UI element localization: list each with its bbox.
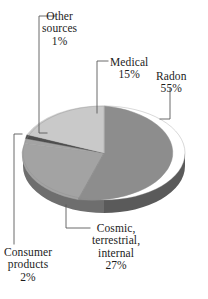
callout-label-radon: Radon 55% (156, 70, 187, 95)
callout-radon-line1: Radon (156, 70, 187, 82)
callout-label-medical: Medical 15% (110, 56, 148, 81)
pie-top-face (22, 106, 185, 200)
callout-cosmic-line2: terrestrial, (92, 234, 140, 246)
callout-consumer-line1: Consumer (4, 246, 52, 258)
callout-other-sources-line1: Other (42, 10, 77, 22)
callout-cosmic-line3: internal (92, 247, 140, 259)
callout-label-cosmic: Cosmic, terrestrial, internal 27% (92, 222, 140, 272)
leader-line-consumer-products (14, 134, 22, 244)
callout-medical-line1: Medical (110, 56, 148, 68)
pie-chart-figure: Other sources 1% Medical 15% Radon 55% C… (0, 0, 208, 299)
callout-other-sources-value: 1% (42, 35, 77, 47)
callout-label-other-sources: Other sources 1% (42, 10, 77, 47)
callout-label-consumer-products: Consumer products 2% (4, 246, 52, 283)
callout-other-sources-line2: sources (42, 22, 77, 34)
callout-medical-value: 15% (110, 68, 148, 80)
callout-cosmic-line1: Cosmic, (92, 222, 140, 234)
callout-consumer-value: 2% (4, 271, 52, 283)
callout-cosmic-value: 27% (92, 259, 140, 271)
callout-radon-value: 55% (156, 82, 187, 94)
leader-line-medical (97, 61, 108, 113)
callout-consumer-line2: products (4, 258, 52, 270)
